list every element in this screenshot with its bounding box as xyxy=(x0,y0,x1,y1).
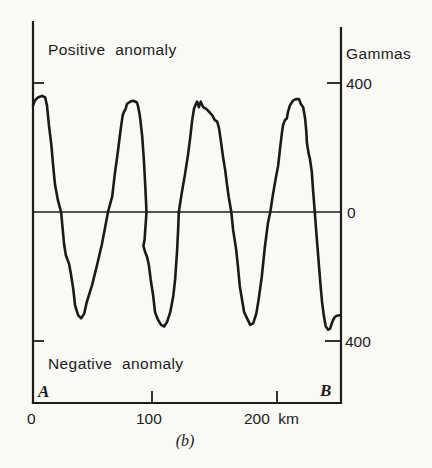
endpoint-b-label: B xyxy=(319,381,331,400)
positive-anomaly-label: Positive anomaly xyxy=(48,41,177,58)
x-label-100: 100 xyxy=(136,410,162,427)
y-label-zero: 0 xyxy=(347,204,356,221)
y-label-plus-400: 400 xyxy=(346,75,372,92)
endpoint-a-label: A xyxy=(37,382,49,401)
figure-caption: (b) xyxy=(176,432,195,450)
negative-anomaly-label: Negative anomaly xyxy=(48,355,183,372)
x-label-0: 0 xyxy=(27,410,36,427)
anomaly-profile-figure: Positive anomaly Negative anomaly Gammas… xyxy=(0,0,432,468)
anomaly-curve xyxy=(33,96,340,330)
x-label-200: 200 km xyxy=(244,410,299,427)
y-label-minus-400: 400 xyxy=(345,333,371,350)
anomaly-chart: Positive anomaly Negative anomaly Gammas… xyxy=(0,0,432,468)
y-axis-title: Gammas xyxy=(346,45,411,62)
